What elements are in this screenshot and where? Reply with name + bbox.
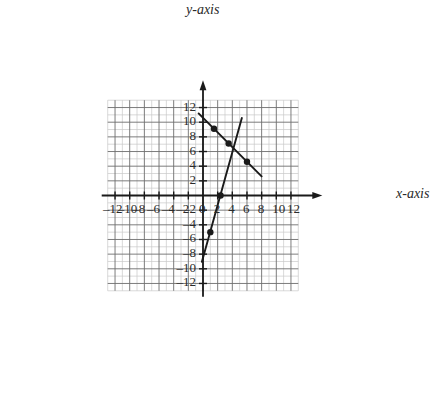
graph-figure: x-axis y-axis –12–10–8–6–4–2024681012–12… [0, 0, 444, 402]
x-tick-label: –4 [162, 201, 175, 217]
data-point [211, 126, 217, 132]
x-tick-label: 6 [243, 201, 250, 217]
line-increasing-line [202, 118, 242, 262]
y-tick-label: –4 [183, 216, 196, 232]
y-tick-label: 4 [190, 157, 197, 173]
y-tick-label: 8 [190, 128, 197, 144]
y-tick-label: –2 [183, 201, 196, 217]
x-axis-label: x-axis [396, 186, 429, 202]
y-tick-label: 12 [183, 99, 196, 115]
data-point [225, 140, 231, 146]
x-tick-label: –8 [132, 201, 145, 217]
y-tick-label: 10 [183, 113, 196, 129]
x-tick-label: 2 [214, 201, 221, 217]
data-point [217, 192, 223, 198]
y-tick-label: –10 [177, 260, 197, 276]
y-tick-label: 6 [190, 143, 197, 159]
y-tick-label: –12 [177, 274, 197, 290]
x-tick-label: –6 [147, 201, 160, 217]
coordinate-plane-svg [0, 0, 444, 402]
data-point [244, 159, 250, 165]
y-tick-label: –8 [183, 245, 196, 261]
x-tick-label: 0 [199, 201, 206, 217]
y-axis-arrowhead [200, 80, 207, 90]
y-tick-label: 2 [190, 172, 197, 188]
x-tick-label: 8 [258, 201, 265, 217]
y-tick-label: –6 [183, 230, 196, 246]
x-axis-arrowhead [312, 192, 322, 199]
data-point [207, 229, 213, 235]
x-tick-label: 12 [287, 201, 300, 217]
x-tick-label: 4 [228, 201, 235, 217]
x-tick-label: 10 [272, 201, 285, 217]
y-axis-label: y-axis [186, 2, 219, 18]
